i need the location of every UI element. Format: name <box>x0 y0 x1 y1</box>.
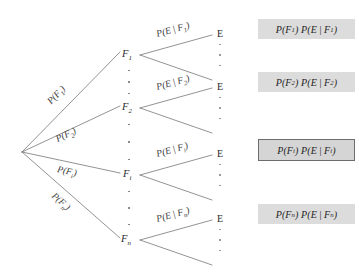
result-box-fn[interactable]: P(Fn) P(E|Fn) <box>258 204 355 224</box>
result-box-f2[interactable]: P(F2) P(E|F2) <box>258 72 355 92</box>
node-label-fn: Fn <box>121 234 131 247</box>
vertical-dots-between-f2-fi <box>125 124 133 160</box>
vertical-dots-under-e-1 <box>216 44 224 66</box>
probability-tree-diagram: F1 F2 Fi Fn P(F1) P(F2) P(Fi) P(Fn) P(E|… <box>0 0 359 275</box>
edge-fi-to-e <box>140 155 212 175</box>
dot <box>128 124 129 125</box>
dot <box>128 224 129 225</box>
dot <box>128 70 129 71</box>
dot <box>219 174 220 175</box>
vertical-dots-under-e-n <box>216 229 224 251</box>
terminal-label-e-i: E <box>217 149 223 159</box>
edge-f2-to-e <box>140 88 212 108</box>
vertical-dots-under-e-i <box>216 164 224 186</box>
vertical-dots-under-e-2 <box>216 97 224 119</box>
vertical-dots-between-f1-f2 <box>125 70 133 94</box>
dot <box>219 44 220 45</box>
dot <box>219 97 220 98</box>
edge-fn-to-e <box>140 220 212 240</box>
dot <box>128 159 129 160</box>
dot <box>219 54 220 55</box>
dot <box>128 191 129 192</box>
dot <box>219 185 220 186</box>
result-box-fi-highlighted[interactable]: P(Fi) P(E|Fi) <box>258 139 355 161</box>
dot <box>219 107 220 108</box>
terminal-label-e-2: E <box>217 82 223 92</box>
terminal-label-e-n: E <box>217 214 223 224</box>
edge-fi-to-not-e <box>140 175 212 200</box>
dot <box>219 229 220 230</box>
terminal-label-e-1: E <box>217 29 223 39</box>
vertical-dots-between-fi-fn <box>125 191 133 225</box>
dot <box>128 93 129 94</box>
edge-fn-to-not-e <box>140 240 212 265</box>
dot <box>219 118 220 119</box>
edge-f2-to-not-e <box>140 108 212 133</box>
edge-f1-to-e <box>140 35 212 55</box>
result-box-f1[interactable]: P(F1) P(E|F1) <box>258 19 355 39</box>
tree-edges <box>0 0 359 275</box>
dot <box>219 250 220 251</box>
node-label-f1: F1 <box>122 49 132 62</box>
edge-root-to-fn <box>22 152 120 238</box>
node-label-f2: F2 <box>122 102 132 115</box>
dot <box>219 65 220 66</box>
dot <box>219 164 220 165</box>
dot <box>128 81 129 82</box>
dot <box>128 207 129 208</box>
dot <box>219 239 220 240</box>
dot <box>128 141 129 142</box>
node-label-fi: Fi <box>123 169 131 182</box>
